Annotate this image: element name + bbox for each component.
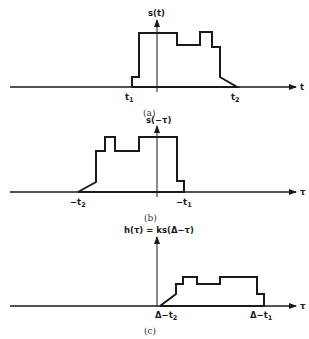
tick-delta-t2: Δ−t2 xyxy=(155,310,177,322)
panel-c: h(τ) = ks(Δ−τ) τ Δ−t2 Δ−t1 (c) xyxy=(10,225,306,336)
y-axis-label: h(τ) = ks(Δ−τ) xyxy=(124,225,194,235)
signal-s-neg-tau xyxy=(78,137,184,192)
panel-a: s(t) t t1 t2 (a) xyxy=(10,8,304,118)
tick-t1: t1 xyxy=(125,92,134,104)
impulse-response-h xyxy=(160,277,264,306)
caption-b: (b) xyxy=(144,213,157,223)
tick-delta-t1: Δ−t1 xyxy=(250,310,273,322)
tick-t2: t2 xyxy=(231,92,240,104)
panel-b: s(−τ) τ −t2 −t1 (b) xyxy=(10,115,306,223)
y-axis-label: s(−τ) xyxy=(146,115,171,125)
signal-s-t xyxy=(132,32,237,87)
tick-neg-t1: −t1 xyxy=(176,197,192,209)
matched-filter-diagram: s(t) t t1 t2 (a) s(−τ) τ −t2 −t1 (b) h(τ… xyxy=(0,0,309,339)
x-axis-label: τ xyxy=(300,301,306,311)
y-axis-label: s(t) xyxy=(148,8,165,18)
x-axis-label: τ xyxy=(300,187,306,197)
tick-neg-t2: −t2 xyxy=(70,197,86,209)
x-axis-label: t xyxy=(300,82,304,92)
caption-c: (c) xyxy=(144,326,156,336)
